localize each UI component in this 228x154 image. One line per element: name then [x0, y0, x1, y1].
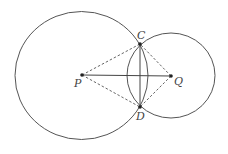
segment-qd [140, 76, 171, 107]
label-d: D [135, 110, 145, 123]
point-q [169, 74, 173, 78]
segment-qc [140, 44, 171, 76]
segment-pq [82, 75, 171, 76]
label-p: P [73, 77, 82, 90]
point-c [138, 42, 142, 46]
point-d [138, 105, 142, 109]
segment-pd [82, 75, 140, 107]
label-q: Q [174, 75, 183, 88]
label-c: C [137, 29, 146, 42]
segment-pc [82, 44, 140, 75]
geometry-diagram: P Q C D [0, 0, 228, 154]
